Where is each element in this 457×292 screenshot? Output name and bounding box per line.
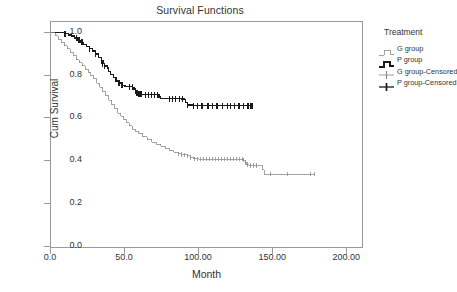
plot-area — [50, 21, 363, 248]
x-tick-mark — [50, 248, 51, 254]
curves-svg — [51, 22, 362, 247]
y-tick-mark — [44, 246, 50, 247]
x-tick-mark — [124, 248, 125, 254]
legend-item[interactable]: G group-Censored — [378, 66, 454, 76]
step-key-icon — [378, 43, 395, 53]
x-tick-label: 150.00 — [242, 253, 302, 262]
y-tick-label: 1.0 — [46, 27, 82, 36]
x-tick-label: 200.00 — [316, 253, 376, 262]
x-tick-mark — [198, 248, 199, 254]
y-axis-label: Cum Survival — [49, 49, 60, 169]
series-line-g-group — [51, 33, 315, 174]
x-tick-label: 0.0 — [20, 253, 80, 262]
x-tick-label: 100.00 — [168, 253, 228, 262]
legend-item[interactable]: G group — [378, 43, 454, 53]
step-key-icon — [378, 55, 395, 65]
x-tick-mark — [346, 248, 347, 254]
x-tick-label: 50.0 — [94, 253, 154, 262]
censor-key-icon — [378, 78, 395, 88]
legend-item-label: P group-Censored — [397, 78, 457, 87]
censor-key-icon — [378, 66, 395, 76]
x-axis-label: Month — [50, 268, 363, 280]
legend-item[interactable]: P group — [378, 55, 454, 65]
legend-title: Treatment — [384, 27, 454, 37]
y-tick-mark — [44, 203, 50, 204]
page-title: Survival Functions — [0, 4, 400, 16]
legend-item-label: G group-Censored — [397, 67, 457, 76]
legend: Treatment G groupP groupG group-Censored… — [378, 27, 454, 89]
legend-item[interactable]: P group-Censored — [378, 78, 454, 88]
y-tick-label: 0.0 — [46, 241, 82, 250]
x-tick-mark — [272, 248, 273, 254]
y-tick-mark — [44, 32, 50, 33]
legend-item-label: G group — [397, 44, 423, 53]
y-tick-label: 0.2 — [46, 198, 82, 207]
legend-item-label: P group — [397, 55, 422, 64]
